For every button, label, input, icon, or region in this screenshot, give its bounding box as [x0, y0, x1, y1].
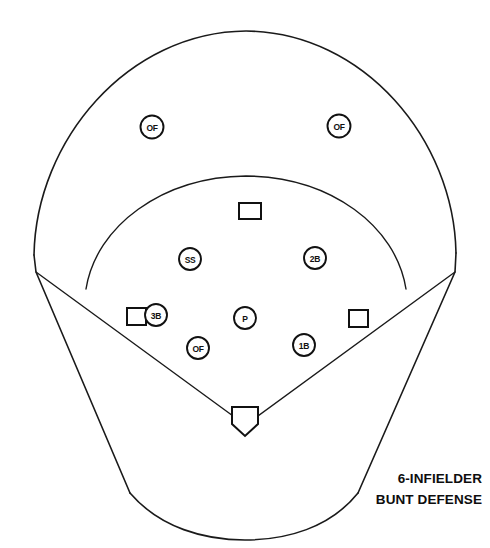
pitcher-label: P: [242, 314, 248, 324]
field-svg: OF OF SS 2B 3B P OF: [0, 0, 490, 548]
first-base: [349, 310, 368, 327]
second-baseman-label: 2B: [310, 254, 320, 264]
caption-line-2: BUNT DEFENSE: [376, 489, 482, 510]
player-marker-outfielder-left: OF: [141, 116, 164, 139]
field-boundary-right: [358, 253, 456, 493]
first-baseman-label: 1B: [299, 341, 309, 351]
home-plate: [232, 407, 258, 436]
shortstop-label: SS: [185, 255, 196, 265]
player-marker-shortstop: SS: [179, 248, 201, 270]
player-marker-pitcher: P: [234, 307, 256, 329]
player-marker-outfielder-infield: OF: [187, 337, 209, 359]
infield-dirt-arc: [86, 176, 406, 289]
outfielder-left-label: OF: [146, 123, 157, 133]
second-base: [239, 203, 261, 219]
backstop-arc: [130, 493, 358, 540]
outfielder-right-label: OF: [333, 122, 344, 132]
diagram-caption: 6-INFIELDER BUNT DEFENSE: [376, 468, 482, 510]
player-marker-outfielder-right: OF: [328, 115, 351, 138]
caption-line-1: 6-INFIELDER: [376, 468, 482, 489]
third-base: [127, 308, 146, 325]
outfield-wall-arc: [34, 31, 456, 255]
third-baseman-label: 3B: [151, 311, 161, 321]
field-boundary-left: [34, 255, 130, 493]
foul-line-first-base: [247, 272, 455, 424]
player-marker-first-baseman: 1B: [293, 334, 315, 356]
outfielder-infield-label: OF: [192, 344, 203, 354]
foul-line-third-base: [36, 272, 244, 424]
player-marker-second-baseman: 2B: [304, 247, 326, 269]
player-marker-third-baseman: 3B: [145, 304, 167, 326]
baseball-field-diagram: OF OF SS 2B 3B P OF: [0, 0, 490, 548]
